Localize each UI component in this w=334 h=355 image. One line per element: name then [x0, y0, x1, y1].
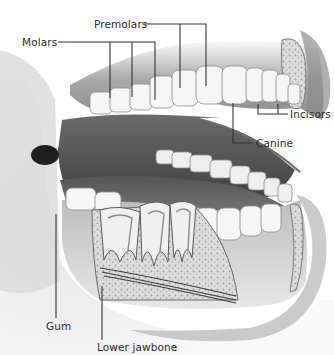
label-incisors: Incisors	[290, 108, 331, 120]
label-lower-jawbone: Lower jawbone	[97, 341, 177, 353]
jaw-illustration	[0, 0, 334, 355]
label-canine: Canine	[256, 137, 293, 149]
teeth-anatomy-diagram: Molars Premolars Incisors Canine Gum Low…	[0, 0, 334, 355]
label-premolars: Premolars	[94, 18, 147, 30]
label-gum: Gum	[46, 320, 71, 332]
label-molars: Molars	[22, 36, 57, 48]
